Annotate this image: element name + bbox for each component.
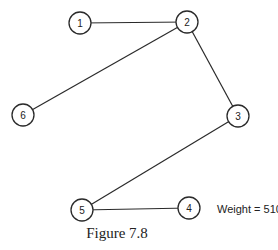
node-1-label: 1 <box>77 18 83 29</box>
edges <box>23 22 238 210</box>
spanning-tree-diagram: 1 2 3 4 5 6 Weight = 510 Figure 7.8 <box>0 0 278 250</box>
node-1: 1 <box>69 12 91 34</box>
node-4: 4 <box>178 197 200 219</box>
node-3-label: 3 <box>235 111 241 122</box>
node-5-label: 5 <box>79 205 85 216</box>
node-6-label: 6 <box>20 110 26 121</box>
figure-caption: Figure 7.8 <box>86 225 148 241</box>
node-6: 6 <box>12 104 34 126</box>
edge-2-3 <box>187 22 238 116</box>
node-5: 5 <box>71 199 93 221</box>
nodes: 1 2 3 4 5 6 <box>12 11 249 221</box>
edge-1-2 <box>80 22 187 23</box>
edge-2-6 <box>23 22 187 115</box>
node-2-label: 2 <box>184 17 190 28</box>
edge-5-4 <box>82 208 189 210</box>
node-2: 2 <box>176 11 198 33</box>
node-3: 3 <box>227 105 249 127</box>
edge-3-5 <box>82 116 238 210</box>
node-4-label: 4 <box>186 203 192 214</box>
weight-label: Weight = 510 <box>217 203 278 215</box>
